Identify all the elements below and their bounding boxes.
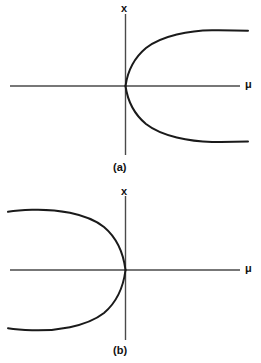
curve-upper-branch-b xyxy=(8,210,126,270)
panel-b-plot xyxy=(0,180,261,363)
curve-upper-branch-a xyxy=(126,30,249,86)
x-axis-label-a: μ xyxy=(245,79,252,90)
x-axis-label-b: μ xyxy=(245,263,252,274)
panel-a: x μ (a) xyxy=(0,0,261,180)
figure-root: x μ (a) x μ (b) xyxy=(0,0,261,363)
panel-b: x μ (b) xyxy=(0,180,261,363)
curve-lower-branch-a xyxy=(126,86,249,142)
y-axis-label-a: x xyxy=(121,3,127,14)
panel-caption-b: (b) xyxy=(113,345,127,356)
panel-a-plot xyxy=(0,0,261,180)
y-axis-label-b: x xyxy=(121,186,127,197)
panel-caption-a: (a) xyxy=(113,162,126,173)
curve-lower-branch-b xyxy=(8,270,126,330)
